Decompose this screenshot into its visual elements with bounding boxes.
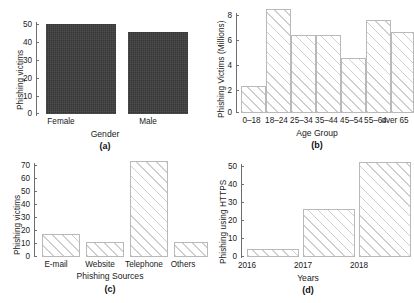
bar-c-telephone[interactable] bbox=[130, 161, 168, 257]
y-tick-mark-a-40 bbox=[36, 42, 39, 43]
bar-a-male[interactable] bbox=[128, 32, 188, 114]
y-tick-c-10: 10 bbox=[16, 240, 30, 248]
y-tick-b-2: 2 bbox=[222, 87, 232, 95]
y-tick-mark-c-20 bbox=[34, 230, 37, 231]
x-axis-label-b: Age Group bbox=[222, 128, 412, 138]
bar-b-18-24[interactable] bbox=[266, 9, 291, 113]
y-tick-mark-a-50 bbox=[36, 24, 39, 25]
bar-b-over-65[interactable] bbox=[391, 32, 414, 113]
y-tick-c-30: 30 bbox=[16, 214, 30, 222]
bar-c-others[interactable] bbox=[174, 242, 208, 257]
y-tick-d-10: 10 bbox=[223, 235, 237, 243]
y-tick-c-70: 70 bbox=[16, 162, 30, 170]
y-tick-mark-a-30 bbox=[36, 60, 39, 61]
x-tick-d-2016: 2016 bbox=[222, 261, 272, 270]
x-tick-c-others: Others bbox=[154, 260, 212, 269]
bars-d bbox=[245, 164, 413, 257]
y-tick-d-30: 30 bbox=[223, 199, 237, 207]
y-tick-mark-c-0 bbox=[34, 256, 37, 257]
y-axis-line-a bbox=[36, 22, 37, 116]
y-tick-b-4: 4 bbox=[222, 62, 232, 70]
y-tick-d-50: 50 bbox=[223, 163, 237, 171]
y-tick-mark-c-60 bbox=[34, 178, 37, 179]
y-tick-b-6: 6 bbox=[222, 37, 232, 45]
figure-sheet: Phishing victims 50 40 30 20 10 0 Female… bbox=[0, 0, 414, 303]
x-tick-d-2018: 2018 bbox=[334, 261, 384, 270]
bar-d-2017[interactable] bbox=[303, 209, 355, 257]
y-tick-mark-a-20 bbox=[36, 78, 39, 79]
y-tick-mark-d-30 bbox=[241, 202, 244, 203]
y-tick-mark-b-8 bbox=[236, 15, 239, 16]
y-axis-line-b bbox=[236, 13, 237, 113]
y-tick-mark-c-30 bbox=[34, 217, 37, 218]
x-axis-label-d: Years bbox=[228, 273, 388, 283]
y-tick-a-40: 40 bbox=[18, 39, 32, 47]
y-tick-mark-d-20 bbox=[241, 220, 244, 221]
y-axis-line-d bbox=[241, 164, 242, 258]
bar-b-0-18[interactable] bbox=[241, 86, 266, 113]
bar-b-35-44[interactable] bbox=[316, 35, 341, 113]
bars-b bbox=[240, 10, 412, 113]
y-tick-mark-d-10 bbox=[241, 238, 244, 239]
y-tick-a-10: 10 bbox=[18, 93, 32, 101]
y-tick-a-30: 30 bbox=[18, 57, 32, 65]
bar-b-55-64[interactable] bbox=[366, 20, 391, 113]
x-tick-b-over-65: over 65 bbox=[374, 116, 414, 125]
panel-caption-d: (d) bbox=[228, 285, 388, 295]
x-tick-d-2017: 2017 bbox=[278, 261, 328, 270]
y-tick-mark-b-0 bbox=[236, 112, 239, 113]
bar-b-45-54[interactable] bbox=[341, 58, 366, 113]
bar-c-website[interactable] bbox=[86, 242, 124, 257]
bar-b-25-34[interactable] bbox=[291, 35, 316, 113]
y-tick-mark-b-2 bbox=[236, 90, 239, 91]
x-tick-a-male: Male bbox=[118, 117, 178, 126]
y-tick-d-40: 40 bbox=[223, 181, 237, 189]
bars-a bbox=[40, 18, 190, 114]
y-tick-c-60: 60 bbox=[16, 175, 30, 183]
y-tick-mark-d-50 bbox=[241, 166, 244, 167]
bar-a-female[interactable] bbox=[46, 24, 116, 114]
panel-caption-b: (b) bbox=[222, 140, 412, 150]
chart-panel-a: Phishing victims 50 40 30 20 10 0 Female… bbox=[0, 0, 210, 151]
y-tick-mark-d-0 bbox=[241, 256, 244, 257]
y-tick-mark-b-4 bbox=[236, 65, 239, 66]
bar-d-2018[interactable] bbox=[359, 162, 411, 257]
bars-c bbox=[38, 163, 206, 257]
y-tick-c-40: 40 bbox=[16, 201, 30, 209]
y-tick-mark-a-10 bbox=[36, 96, 39, 97]
y-tick-mark-c-70 bbox=[34, 165, 37, 166]
panel-caption-c: (c) bbox=[20, 284, 200, 294]
y-tick-mark-c-10 bbox=[34, 243, 37, 244]
chart-panel-d: Phishing using HTTPS 50 40 30 20 10 0 20… bbox=[208, 151, 414, 303]
y-tick-d-0: 0 bbox=[223, 253, 237, 261]
y-tick-mark-a-0 bbox=[36, 113, 39, 114]
x-axis-label-a: Gender bbox=[0, 129, 210, 139]
chart-panel-b: Phishing Victims (Millions) 8 6 4 2 0 0–… bbox=[208, 0, 414, 151]
y-tick-mark-b-6 bbox=[236, 40, 239, 41]
y-tick-c-20: 20 bbox=[16, 227, 30, 235]
x-tick-a-female: Female bbox=[26, 117, 96, 126]
x-axis-label-c: Phishing Sources bbox=[20, 271, 200, 281]
bar-c-email[interactable] bbox=[42, 234, 80, 257]
y-tick-b-8: 8 bbox=[222, 12, 232, 20]
y-tick-mark-c-40 bbox=[34, 204, 37, 205]
y-tick-a-20: 20 bbox=[18, 75, 32, 83]
bar-d-2016[interactable] bbox=[247, 249, 299, 257]
y-tick-mark-d-40 bbox=[241, 184, 244, 185]
y-tick-c-50: 50 bbox=[16, 188, 30, 196]
y-tick-a-50: 50 bbox=[18, 21, 32, 29]
chart-panel-c: Phishing victims 70 60 50 40 30 20 10 0 … bbox=[0, 151, 210, 303]
y-tick-mark-c-50 bbox=[34, 191, 37, 192]
y-tick-d-20: 20 bbox=[223, 217, 237, 225]
panel-caption-a: (a) bbox=[0, 141, 210, 151]
